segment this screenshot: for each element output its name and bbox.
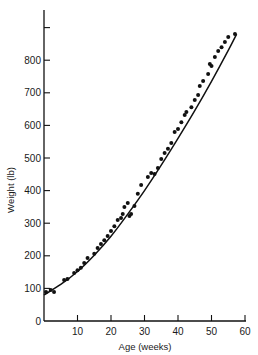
data-point xyxy=(166,147,170,151)
y-tick-label: 100 xyxy=(24,283,41,294)
data-point xyxy=(109,229,113,233)
data-point xyxy=(86,256,90,260)
data-point xyxy=(206,72,210,76)
data-point xyxy=(189,105,193,109)
data-point xyxy=(146,175,150,179)
x-tick-label: 40 xyxy=(172,326,184,337)
data-point xyxy=(116,218,120,222)
data-point xyxy=(65,277,69,281)
data-point xyxy=(163,151,167,155)
data-point xyxy=(96,246,100,250)
data-point xyxy=(121,212,125,216)
data-point xyxy=(184,110,188,114)
data-point xyxy=(44,290,48,294)
x-axis-label: Age (weeks) xyxy=(119,341,172,352)
x-tick-label: 50 xyxy=(206,326,218,337)
data-point xyxy=(156,166,160,170)
data-point xyxy=(126,201,130,205)
data-point xyxy=(173,130,177,134)
data-point xyxy=(179,120,183,124)
data-point xyxy=(169,141,173,145)
weight-vs-age-chart: 102030405060 0100200300400500600700800 A… xyxy=(0,0,258,355)
data-point xyxy=(233,32,237,36)
data-point xyxy=(153,172,157,176)
data-point xyxy=(102,238,106,242)
y-tick-label: 700 xyxy=(24,87,41,98)
data-point xyxy=(201,79,205,83)
data-point xyxy=(122,205,126,209)
data-point xyxy=(119,216,123,220)
data-point xyxy=(176,127,180,131)
data-point xyxy=(112,224,116,228)
data-point xyxy=(220,45,224,49)
data-point xyxy=(82,261,86,265)
x-tick-label: 60 xyxy=(239,326,251,337)
data-point xyxy=(196,93,200,97)
x-tick-label: 30 xyxy=(139,326,151,337)
data-point xyxy=(216,49,220,53)
y-axis-label: Weight (lb) xyxy=(5,167,16,213)
data-point xyxy=(198,84,202,88)
data-point xyxy=(79,266,83,270)
data-point xyxy=(159,157,163,161)
data-point xyxy=(213,55,217,59)
data-point xyxy=(223,40,227,44)
data-point xyxy=(210,64,214,68)
data-point xyxy=(76,268,80,272)
x-axis-ticks: 102030405060 xyxy=(72,315,251,337)
data-point xyxy=(99,242,103,246)
x-tick-label: 20 xyxy=(105,326,117,337)
y-tick-label: 300 xyxy=(24,218,41,229)
y-axis-ticks: 0100200300400500600700800 xyxy=(24,28,50,327)
data-points xyxy=(44,32,237,294)
y-tick-label: 400 xyxy=(24,185,41,196)
y-tick-label: 800 xyxy=(24,55,41,66)
y-tick-label: 500 xyxy=(24,153,41,164)
data-point xyxy=(92,252,96,256)
data-point xyxy=(193,98,197,102)
data-point xyxy=(129,212,133,216)
data-point xyxy=(139,183,143,187)
y-tick-label: 600 xyxy=(24,120,41,131)
data-point xyxy=(52,290,56,294)
y-tick-label: 0 xyxy=(35,316,41,327)
data-point xyxy=(106,234,110,238)
data-point xyxy=(136,192,140,196)
data-point xyxy=(226,35,230,39)
data-point xyxy=(49,288,53,292)
data-point xyxy=(72,271,76,275)
y-tick-label: 200 xyxy=(24,250,41,261)
x-tick-label: 10 xyxy=(72,326,84,337)
data-point xyxy=(132,204,136,208)
